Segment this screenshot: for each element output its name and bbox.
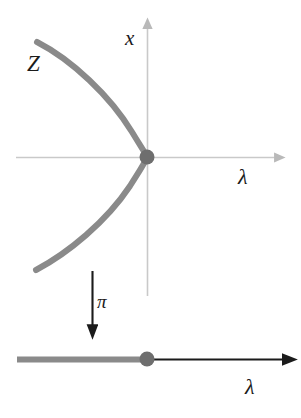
axis-label-x: x (125, 28, 134, 49)
curve-Z (36, 42, 147, 270)
curve-Z-path (36, 42, 147, 270)
bottom-panel-axis (17, 352, 284, 367)
axis-label-lambda-top: λ (238, 166, 248, 188)
origin-dot-top (140, 150, 155, 165)
curve-label-Z: Z (27, 52, 40, 75)
figure-canvas: Z x λ π λ (0, 0, 301, 418)
projection-label-pi: π (97, 292, 107, 311)
diagram-svg (0, 0, 301, 418)
origin-dot-bottom (140, 352, 155, 367)
axis-label-lambda-bottom: λ (245, 376, 255, 398)
